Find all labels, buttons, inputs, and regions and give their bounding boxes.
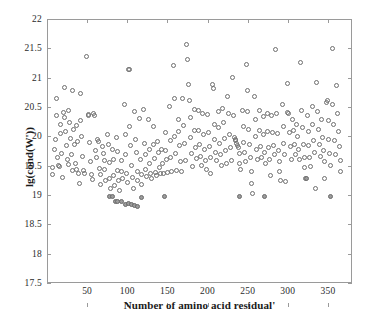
data-point — [96, 139, 101, 144]
data-point — [310, 122, 315, 127]
data-point — [222, 136, 227, 141]
data-point — [290, 117, 295, 122]
data-point — [322, 159, 327, 164]
y-axis-tick — [47, 254, 51, 255]
data-point — [106, 142, 111, 147]
y-axis-tick-right — [348, 195, 352, 196]
data-point — [292, 142, 297, 147]
data-point — [55, 155, 60, 160]
data-point — [315, 109, 320, 114]
data-point — [62, 85, 67, 90]
y-axis-tick-label: 20 — [2, 131, 42, 141]
data-point — [208, 171, 213, 176]
data-point — [267, 157, 272, 162]
data-point — [246, 127, 251, 132]
data-point — [98, 172, 103, 177]
data-point — [230, 75, 235, 80]
x-axis-tick-top — [288, 19, 289, 23]
data-point — [332, 138, 337, 143]
data-point — [283, 179, 288, 184]
data-point — [245, 88, 250, 93]
data-point — [249, 181, 254, 186]
data-point — [171, 63, 176, 68]
data-point — [330, 102, 335, 107]
data-point — [139, 172, 144, 177]
data-point — [253, 117, 258, 122]
plot-area — [47, 19, 352, 283]
data-point — [218, 152, 223, 157]
x-axis-tick-top — [167, 19, 168, 23]
data-point — [66, 162, 71, 167]
data-point — [87, 140, 92, 145]
data-point — [313, 186, 318, 191]
y-axis-tick-right — [348, 254, 352, 255]
y-axis-tick-right — [348, 136, 352, 137]
y-axis-tick-label: 18 — [2, 249, 42, 259]
data-point — [110, 194, 115, 199]
data-point — [321, 148, 326, 153]
data-point — [305, 113, 310, 118]
data-point — [225, 94, 230, 99]
data-point — [231, 113, 236, 118]
data-point — [127, 67, 132, 72]
data-point — [259, 155, 264, 160]
data-point — [275, 131, 280, 136]
x-axis-tick-top — [208, 19, 209, 23]
data-point — [320, 135, 325, 140]
data-point — [84, 54, 89, 59]
data-point — [245, 109, 250, 114]
data-point — [139, 182, 144, 187]
data-point — [338, 169, 343, 174]
data-point — [130, 175, 135, 180]
data-point — [60, 175, 65, 180]
y-axis-tick — [47, 19, 51, 20]
data-point — [115, 149, 120, 154]
data-point — [141, 107, 146, 112]
data-point — [214, 158, 219, 163]
data-point — [208, 155, 213, 160]
data-point — [187, 98, 192, 103]
data-point — [68, 136, 73, 141]
y-axis-tick — [47, 195, 51, 196]
data-point — [203, 158, 208, 163]
data-point — [157, 165, 162, 170]
x-axis-tick-label: 250 — [240, 286, 255, 296]
data-point — [66, 108, 71, 113]
data-point — [272, 152, 277, 157]
data-point — [299, 108, 304, 113]
data-point — [237, 161, 242, 166]
y-axis-tick-label: 19 — [2, 190, 42, 200]
data-point — [80, 154, 85, 159]
data-point — [257, 108, 262, 113]
data-point — [216, 125, 221, 130]
data-point — [133, 137, 138, 142]
data-point — [262, 150, 267, 155]
data-point — [333, 152, 338, 157]
data-point — [328, 194, 333, 199]
data-point — [331, 122, 336, 127]
data-point — [137, 116, 142, 121]
data-point — [163, 148, 168, 153]
data-point — [253, 134, 258, 139]
data-point — [294, 122, 299, 127]
y-axis-tick — [47, 78, 51, 79]
data-point — [268, 173, 273, 178]
data-point — [211, 86, 216, 91]
data-point — [189, 151, 194, 156]
data-point — [240, 108, 245, 113]
data-point — [277, 169, 282, 174]
data-point — [297, 157, 302, 162]
y-axis-tick-right — [348, 166, 352, 167]
data-point — [241, 124, 246, 129]
data-point — [295, 134, 300, 139]
y-axis-tick-right — [348, 107, 352, 108]
x-axis-tick-label: 200 — [200, 286, 215, 296]
data-point — [142, 141, 147, 146]
data-point — [59, 151, 64, 156]
data-point — [237, 194, 242, 199]
y-axis-tick-label: 22 — [2, 14, 42, 24]
data-point — [304, 176, 309, 181]
data-point — [249, 169, 254, 174]
data-point — [92, 113, 97, 118]
x-axis-tick-top — [87, 19, 88, 23]
